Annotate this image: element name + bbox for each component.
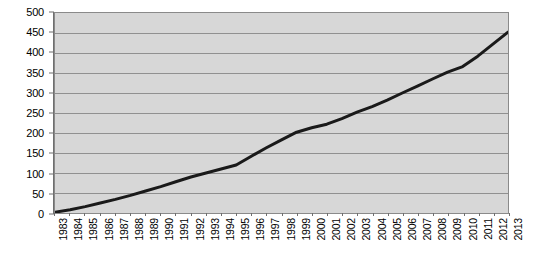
y-tick-label: 400 (26, 47, 44, 58)
x-tick-mark (448, 213, 449, 216)
x-tick-label: 2002 (346, 218, 357, 241)
x-tick-label: 2000 (316, 218, 327, 241)
x-tick-mark (191, 213, 192, 216)
x-tick-label: 2006 (407, 218, 418, 241)
x-tick-label: 2001 (331, 218, 342, 241)
x-tick-label: 2004 (377, 218, 388, 241)
x-tick-mark (403, 213, 404, 216)
y-tick-label: 250 (26, 108, 44, 119)
x-tick-label: 1998 (286, 218, 297, 241)
x-tick-label: 1984 (73, 218, 84, 241)
x-tick-mark (175, 213, 176, 216)
x-tick-mark (388, 213, 389, 216)
x-tick-mark (221, 213, 222, 216)
x-tick-mark (433, 213, 434, 216)
x-tick-label: 1999 (301, 218, 312, 241)
x-tick-mark (130, 213, 131, 216)
x-tick-label: 1992 (195, 218, 206, 241)
y-axis: 050100150200250300350400450500 (0, 0, 54, 214)
x-tick-label: 1995 (240, 218, 251, 241)
x-tick-label: 2007 (422, 218, 433, 241)
x-tick-label: 2012 (498, 218, 509, 241)
x-tick-mark (160, 213, 161, 216)
x-tick-mark (509, 213, 510, 216)
x-tick-mark (464, 213, 465, 216)
x-tick-mark (327, 213, 328, 216)
x-tick-mark (282, 213, 283, 216)
x-tick-label: 1987 (119, 218, 130, 241)
data-series-line (55, 13, 508, 213)
y-tick-label: 100 (26, 168, 44, 179)
x-tick-label: 2005 (392, 218, 403, 241)
x-tick-mark (69, 213, 70, 216)
y-tick-label: 300 (26, 87, 44, 98)
x-tick-mark (251, 213, 252, 216)
y-tick-label: 350 (26, 67, 44, 78)
x-tick-label: 2011 (483, 218, 494, 240)
x-tick-label: 1996 (255, 218, 266, 241)
x-tick-mark (342, 213, 343, 216)
x-tick-mark (357, 213, 358, 216)
x-tick-mark (54, 213, 55, 216)
y-tick-label: 500 (26, 7, 44, 18)
y-tick-label: 450 (26, 27, 44, 38)
x-tick-mark (494, 213, 495, 216)
y-tick-label: 0 (38, 209, 44, 220)
x-tick-mark (206, 213, 207, 216)
x-tick-label: 1991 (179, 218, 190, 241)
x-tick-label: 2009 (452, 218, 463, 241)
x-tick-label: 2003 (361, 218, 372, 241)
x-tick-mark (373, 213, 374, 216)
x-tick-label: 1993 (210, 218, 221, 241)
y-tick-label: 200 (26, 128, 44, 139)
x-tick-mark (266, 213, 267, 216)
x-axis: 1983198419851986198719881989199019911992… (54, 214, 509, 257)
x-tick-label: 1989 (149, 218, 160, 241)
x-tick-label: 2010 (468, 218, 479, 241)
y-tick-label: 50 (32, 188, 44, 199)
x-tick-label: 1990 (164, 218, 175, 241)
x-tick-mark (236, 213, 237, 216)
x-tick-mark (418, 213, 419, 216)
x-tick-label: 1985 (88, 218, 99, 241)
x-tick-mark (84, 213, 85, 216)
line-chart: 050100150200250300350400450500 198319841… (0, 0, 537, 257)
x-tick-mark (115, 213, 116, 216)
x-tick-mark (297, 213, 298, 216)
x-tick-label: 1983 (58, 218, 69, 241)
x-tick-label: 2008 (437, 218, 448, 241)
x-tick-label: 1988 (134, 218, 145, 241)
plot-area (54, 12, 509, 214)
y-tick-label: 150 (26, 148, 44, 159)
x-tick-mark (479, 213, 480, 216)
x-tick-label: 1997 (270, 218, 281, 241)
x-tick-mark (312, 213, 313, 216)
x-tick-mark (145, 213, 146, 216)
x-tick-label: 1986 (104, 218, 115, 241)
x-tick-label: 2013 (513, 218, 524, 241)
x-tick-label: 1994 (225, 218, 236, 241)
x-tick-mark (100, 213, 101, 216)
